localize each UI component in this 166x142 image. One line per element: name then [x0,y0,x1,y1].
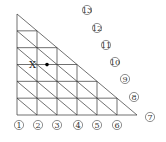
point-x-marker [45,63,49,67]
right-label-11: 11 [101,41,111,50]
right-label-10: 10 [110,58,120,67]
point-x-label: X [29,59,37,70]
right-label-13: 13 [82,6,92,15]
bottom-label-4: 4 [75,121,80,130]
triangle-grid-diagram: X 12345678910111213 [0,0,166,142]
bottom-label-5: 5 [94,121,99,130]
right-label-9: 9 [122,75,127,84]
bottom-label-2: 2 [35,121,40,130]
bottom-label-3: 3 [54,121,59,130]
bottom-label-6: 6 [114,121,119,130]
right-label-8: 8 [131,93,136,102]
bottom-label-1: 1 [16,121,21,130]
right-label-7: 7 [147,113,152,122]
right-label-12: 12 [92,24,102,33]
